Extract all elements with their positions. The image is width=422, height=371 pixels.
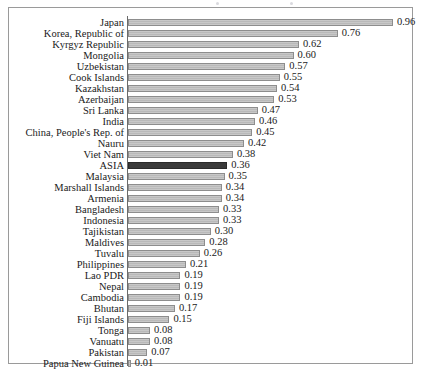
bar-row: Malaysia0.35: [128, 171, 421, 182]
value-label: 0.19: [184, 291, 202, 302]
bar: [128, 327, 150, 334]
value-label: 0.30: [215, 225, 233, 236]
value-label: 0.21: [190, 258, 208, 269]
bar-row: Tuvalu0.26: [128, 248, 421, 259]
category-label: Bangladesh: [75, 204, 124, 215]
value-label: 0.62: [303, 38, 321, 49]
category-label: Marshall Islands: [54, 182, 124, 193]
category-label: Philippines: [77, 259, 124, 270]
bar: [128, 85, 277, 92]
category-label: Bhutan: [94, 303, 124, 314]
category-label: China, People's Rep. of: [26, 127, 124, 138]
bar-chart-figure: Japan0.96Korea, Republic of0.76Kyrgyz Re…: [0, 0, 422, 371]
value-label: 0.76: [342, 27, 360, 38]
value-label: 0.45: [256, 126, 274, 137]
value-label: 0.07: [151, 346, 169, 357]
bar: [128, 305, 175, 312]
category-label: Nauru: [98, 138, 124, 149]
bar: [128, 30, 338, 37]
bar: [128, 107, 258, 114]
value-label: 0.55: [284, 71, 302, 82]
value-label: 0.42: [248, 137, 266, 148]
category-label: Lao PDR: [85, 270, 124, 281]
bar: [128, 129, 252, 136]
category-label: Malaysia: [86, 171, 125, 182]
value-label: 0.57: [289, 60, 307, 71]
category-label: Kyrgyz Republic: [52, 39, 124, 50]
bar-row: Bangladesh0.33: [128, 204, 421, 215]
bar: [128, 184, 222, 191]
bar: [128, 283, 180, 290]
bar-row: Kyrgyz Republic0.62: [128, 39, 421, 50]
value-label: 0.54: [281, 82, 299, 93]
bar: [128, 338, 150, 345]
category-label: India: [102, 116, 124, 127]
bar: [128, 140, 244, 147]
category-label: Uzbekistan: [77, 61, 124, 72]
bar-row: Viet Nam0.38: [128, 149, 421, 160]
category-label: Tuvalu: [95, 248, 124, 259]
value-label: 0.35: [229, 170, 247, 181]
category-label: Nepal: [99, 281, 124, 292]
bar: [128, 206, 219, 213]
value-label: 0.26: [204, 247, 222, 258]
bar-row: Kazakhstan0.54: [128, 83, 421, 94]
value-label: 0.96: [397, 16, 415, 27]
category-label: ASIA: [99, 160, 124, 171]
value-label: 0.60: [298, 49, 316, 60]
bar-row: Mongolia0.60: [128, 50, 421, 61]
bar: [128, 261, 186, 268]
value-label: 0.15: [173, 313, 191, 324]
value-label: 0.34: [226, 192, 244, 203]
category-label: Tonga: [98, 325, 124, 336]
value-label: 0.34: [226, 181, 244, 192]
category-label: Cambodia: [81, 292, 124, 303]
bar: [128, 151, 233, 158]
category-label: Indonesia: [83, 215, 124, 226]
bar: [128, 250, 200, 257]
value-label: 0.33: [223, 203, 241, 214]
bar-row: Cook Islands0.55: [128, 72, 421, 83]
value-label: 0.47: [262, 104, 280, 115]
category-label: Maldives: [85, 237, 124, 248]
value-label: 0.53: [278, 93, 296, 104]
category-label: Papua New Guinea: [43, 358, 124, 369]
bar-highlight: [128, 162, 227, 169]
category-label: Korea, Republic of: [44, 28, 124, 39]
category-label: Mongolia: [83, 50, 124, 61]
value-label: 0.08: [154, 335, 172, 346]
bar: [128, 74, 280, 81]
bar: [128, 272, 180, 279]
bar-row: China, People's Rep. of0.45: [128, 127, 421, 138]
bar-row: Lao PDR0.19: [128, 270, 421, 281]
category-label: Armenia: [87, 193, 124, 204]
category-label: Pakistan: [88, 347, 124, 358]
category-label: Fiji Islands: [77, 314, 124, 325]
bar: [128, 294, 180, 301]
bar-row: ASIA0.36: [128, 160, 421, 171]
bar-row: Maldives0.28: [128, 237, 421, 248]
bar: [128, 316, 169, 323]
bar: [128, 173, 225, 180]
category-label: Viet Nam: [84, 149, 124, 160]
bar-row: Nepal0.19: [128, 281, 421, 292]
chart-frame: Japan0.96Korea, Republic of0.76Kyrgyz Re…: [8, 7, 413, 364]
value-label: 0.33: [223, 214, 241, 225]
bar: [128, 195, 222, 202]
value-label: 0.19: [184, 269, 202, 280]
bar: [128, 217, 219, 224]
bar-row: Bhutan0.17: [128, 303, 421, 314]
bar-row: Vanuatu0.08: [128, 336, 421, 347]
bar-row: Armenia0.34: [128, 193, 421, 204]
bar-row: Indonesia0.33: [128, 215, 421, 226]
value-label: 0.08: [154, 324, 172, 335]
bar-row: Japan0.96: [128, 17, 421, 28]
value-label: 0.17: [179, 302, 197, 313]
bar-row: Cambodia0.19: [128, 292, 421, 303]
bar-row: Philippines0.21: [128, 259, 421, 270]
bar: [128, 239, 205, 246]
bar: [128, 349, 147, 356]
bar: [128, 41, 299, 48]
bar-row: Papua New Guinea0.01: [128, 358, 421, 369]
value-label: 0.28: [209, 236, 227, 247]
